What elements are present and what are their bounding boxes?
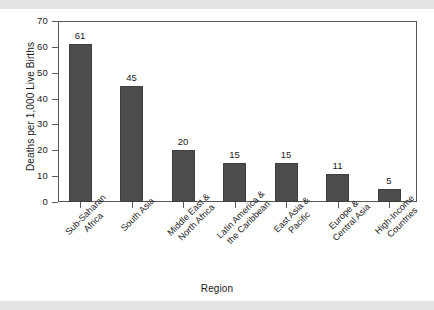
y-tick-label: 50 <box>8 68 48 78</box>
y-tick-mark <box>52 21 58 22</box>
y-tick-mark <box>52 202 58 203</box>
x-tick-mark <box>338 202 339 208</box>
x-tick-mark <box>80 202 81 208</box>
bar-value-label: 61 <box>60 31 100 41</box>
y-tick-mark <box>52 73 58 74</box>
y-tick-mark <box>52 124 58 125</box>
scan-band-top <box>0 0 434 9</box>
y-tick-label: 0 <box>8 197 48 207</box>
x-tick-mark <box>235 202 236 208</box>
bar-value-label: 45 <box>112 73 152 83</box>
bar-value-label: 20 <box>163 137 203 147</box>
bar <box>69 44 92 202</box>
scan-band-bottom <box>0 301 434 310</box>
x-tick-mark <box>183 202 184 208</box>
y-tick-mark <box>52 99 58 100</box>
y-tick-label: 60 <box>8 42 48 52</box>
x-tick-mark <box>389 202 390 208</box>
y-tick-label: 70 <box>8 16 48 26</box>
y-tick-mark <box>52 47 58 48</box>
bar-value-label: 15 <box>266 150 306 160</box>
y-tick-label: 30 <box>8 119 48 129</box>
y-tick-mark <box>52 150 58 151</box>
x-axis-title: Region <box>0 283 434 294</box>
x-tick-mark <box>286 202 287 208</box>
x-tick-mark <box>132 202 133 208</box>
y-tick-label: 10 <box>8 171 48 181</box>
bar-value-label: 15 <box>215 150 255 160</box>
bar-value-label: 11 <box>318 161 358 171</box>
y-tick-label: 20 <box>8 145 48 155</box>
y-tick-mark <box>52 176 58 177</box>
bar-chart-figure: Deaths per 1,000 Live Births 01020304050… <box>0 9 434 301</box>
y-tick-label: 40 <box>8 94 48 104</box>
